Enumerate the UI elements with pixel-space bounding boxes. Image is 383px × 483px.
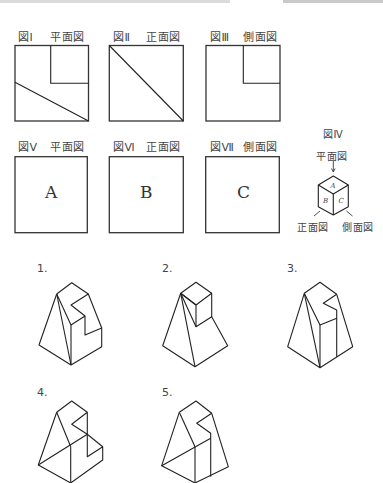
drawing-canvas: A B C xyxy=(0,0,383,483)
fig6-box-b xyxy=(109,157,183,233)
fig2-front-view xyxy=(109,46,183,122)
option-5-solid[interactable] xyxy=(162,401,229,483)
fig7-box-c xyxy=(206,157,280,233)
svg-text:A: A xyxy=(330,182,336,190)
option-4-solid[interactable] xyxy=(38,401,102,483)
fig3-side-view xyxy=(206,46,280,122)
svg-text:C: C xyxy=(339,197,345,205)
svg-text:B: B xyxy=(322,197,328,205)
fig5-box-a xyxy=(15,157,87,233)
fig1-plan-view xyxy=(15,46,89,122)
option-1-solid[interactable] xyxy=(39,283,102,365)
legend-cube: A B C xyxy=(314,161,353,216)
option-2-solid[interactable] xyxy=(163,282,228,366)
option-3-solid[interactable] xyxy=(288,282,353,367)
